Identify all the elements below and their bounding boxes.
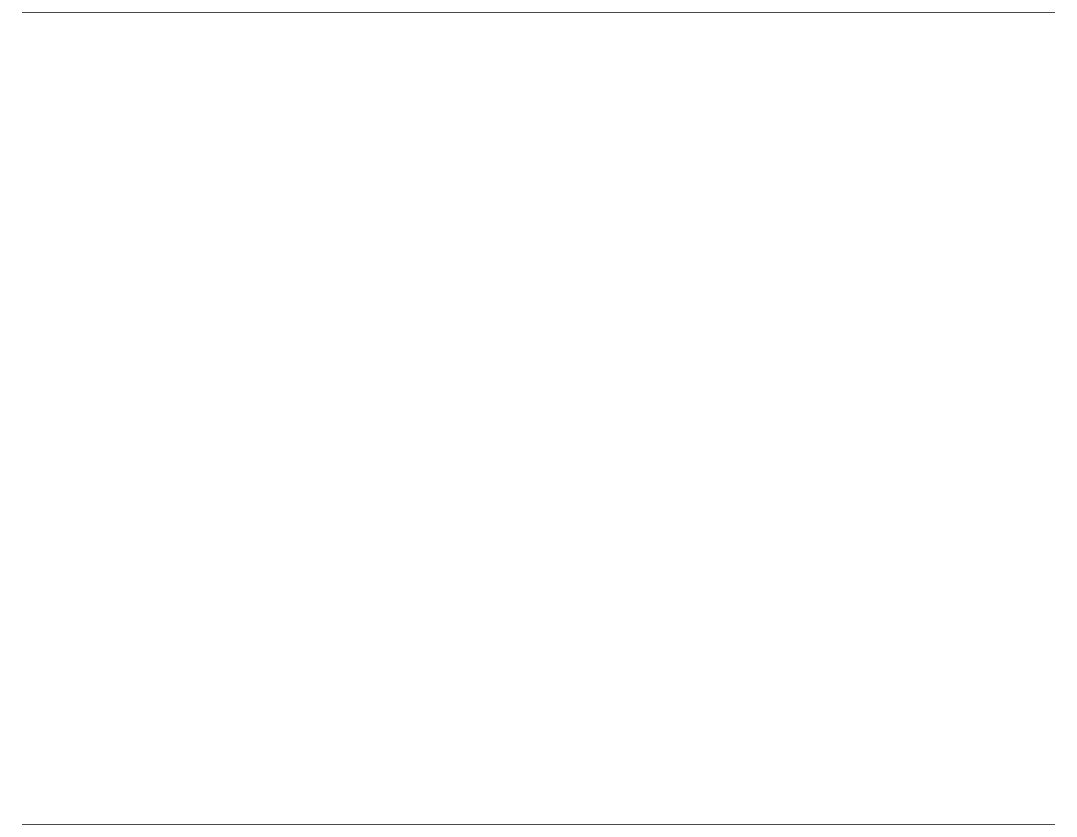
top-divider-rule <box>22 12 1055 13</box>
legend-title <box>228 632 436 652</box>
choropleth-map <box>0 18 1077 808</box>
bottom-divider-rule <box>22 824 1055 825</box>
map-svg <box>0 18 1077 808</box>
top-10-counties-panel <box>52 26 262 32</box>
map-legend <box>228 632 436 662</box>
